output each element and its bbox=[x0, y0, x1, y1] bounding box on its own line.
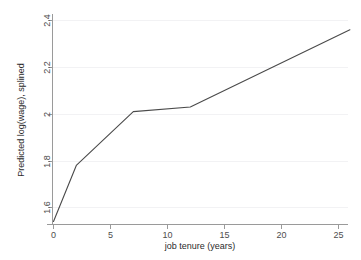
y-axis: 2.4 2.2 2 1.8 1.6 Predicted log(wage), s… bbox=[16, 14, 52, 224]
y-tick-label-2-2: 2.2 bbox=[42, 61, 52, 74]
x-axis-title: job tenure (years) bbox=[164, 241, 236, 251]
chart-figure: 2.4 2.2 2 1.8 1.6 Predicted log(wage), s… bbox=[0, 0, 361, 260]
x-tick-label-0: 0 bbox=[51, 230, 56, 240]
x-tick-label-25: 25 bbox=[333, 230, 343, 240]
plot-area-background bbox=[53, 12, 348, 224]
x-tick-label-5: 5 bbox=[108, 230, 113, 240]
x-tick-label-10: 10 bbox=[162, 230, 172, 240]
line-chart: 2.4 2.2 2 1.8 1.6 Predicted log(wage), s… bbox=[0, 0, 361, 260]
y-tick-label-2-0: 2 bbox=[42, 112, 52, 117]
y-axis-title: Predicted log(wage), splined bbox=[16, 63, 26, 177]
y-tick-label-1-6: 1.6 bbox=[42, 201, 52, 214]
x-tick-label-20: 20 bbox=[276, 230, 286, 240]
y-tick-label-1-8: 1.8 bbox=[42, 155, 52, 168]
x-tick-label-15: 15 bbox=[219, 230, 229, 240]
y-tick-label-2-4: 2.4 bbox=[42, 14, 52, 27]
x-axis: 0 5 10 15 20 25 job tenure (years) bbox=[47, 225, 348, 252]
